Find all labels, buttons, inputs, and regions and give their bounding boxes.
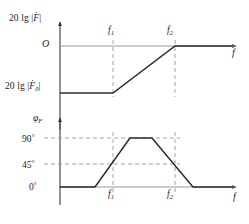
phase-tick-0deg: 0° (29, 182, 37, 192)
magnitude-x-axis-label: f (232, 48, 235, 58)
bode-plot-figure: 20 lg |F| O 20 lg |F0| f1 f2 f φF 90° 45… (0, 0, 249, 224)
phase-x-axis-label: f (233, 192, 236, 202)
magnitude-response-curve (60, 46, 232, 93)
magnitude-origin-label: O (42, 39, 49, 49)
magnitude-tick-f2: f2 (167, 26, 173, 36)
phase-tick-45deg: 45° (22, 160, 35, 170)
phase-response-curve (60, 138, 232, 187)
magnitude-plot-group (60, 22, 236, 130)
phase-tick-f1: f1 (108, 190, 114, 200)
magnitude-level-label: 20 lg |F0| (5, 82, 41, 92)
magnitude-y-axis-label: 20 lg |F| (9, 14, 41, 24)
phase-tick-f2: f2 (167, 190, 173, 200)
magnitude-tick-f1: f1 (108, 26, 114, 36)
plot-canvas (0, 0, 249, 224)
phase-y-axis-label: φF (33, 114, 43, 124)
phase-tick-90deg: 90° (22, 134, 35, 144)
phase-plot-group (44, 118, 236, 205)
